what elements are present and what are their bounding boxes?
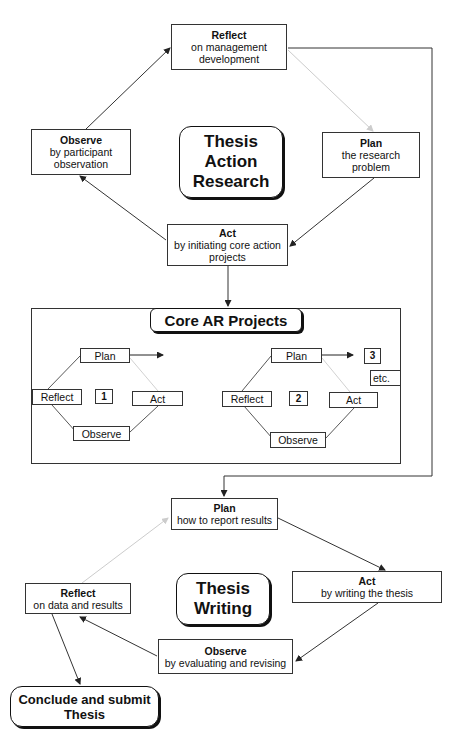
cycle1-plan: Plan xyxy=(80,348,130,363)
cycle1-plan-label: Plan xyxy=(94,350,115,362)
act-heading: Act xyxy=(219,227,236,239)
observe-participant-box: Observe by participant observation xyxy=(31,129,131,175)
cycle2-reflect-label: Reflect xyxy=(231,393,264,405)
reflect-line-1: on management xyxy=(191,41,267,53)
observe-line-1: by participant xyxy=(50,146,112,158)
cycle2-act-label: Act xyxy=(346,394,361,406)
cycle3-number-label: 3 xyxy=(370,350,376,362)
cycle2-plan: Plan xyxy=(271,348,322,363)
thesis-writing-title: Thesis Writing xyxy=(176,573,270,625)
cycle2-act: Act xyxy=(329,392,378,408)
cycle2-number: 2 xyxy=(289,391,308,406)
conclude-line-1: Conclude and submit xyxy=(18,692,150,707)
title-line-2: Action xyxy=(205,152,258,172)
title-line-1: Thesis xyxy=(204,132,258,152)
plan-line-1: the research xyxy=(342,149,400,161)
observe-heading: Observe xyxy=(60,134,102,146)
plan-heading: Plan xyxy=(360,137,382,149)
writing-title-line-1: Thesis xyxy=(196,579,250,599)
cycle3-number: 3 xyxy=(364,348,381,364)
act-line-1: by initiating core action xyxy=(174,239,281,251)
cycle2-plan-label: Plan xyxy=(286,350,307,362)
act-writing-line: by writing the thesis xyxy=(321,587,413,599)
conclude-line-2: Thesis xyxy=(64,707,105,722)
cycle1-number-label: 1 xyxy=(101,391,107,403)
core-title-text: Core AR Projects xyxy=(165,312,288,329)
cycle2-observe: Observe xyxy=(270,432,326,448)
observe-line-2: observation xyxy=(54,158,108,170)
plan-line-2: problem xyxy=(352,161,390,173)
reflect-line-2: development xyxy=(199,53,259,65)
etc-box: etc. xyxy=(370,370,401,386)
reflect-heading: Reflect xyxy=(211,29,246,41)
reflect-management-box: Reflect on management development xyxy=(171,24,287,70)
etc-label: etc. xyxy=(373,372,390,384)
observe-eval-line: by evaluating and revising xyxy=(165,657,286,669)
reflect-data-line: on data and results xyxy=(33,599,122,611)
cycle1-act-label: Act xyxy=(150,393,165,405)
reflect-data-heading: Reflect xyxy=(60,587,95,599)
cycle1-observe: Observe xyxy=(73,426,130,441)
plan-report-results-box: Plan how to report results xyxy=(171,498,278,530)
cycle2-reflect: Reflect xyxy=(222,391,272,407)
act-writing-heading: Act xyxy=(359,575,376,587)
plan-report-line: how to report results xyxy=(177,514,272,526)
cycle2-number-label: 2 xyxy=(296,393,302,405)
title-line-3: Research xyxy=(193,172,270,192)
plan-report-heading: Plan xyxy=(213,502,235,514)
conclude-submit-thesis-box: Conclude and submit Thesis xyxy=(10,686,159,727)
act-writing-thesis-box: Act by writing the thesis xyxy=(292,571,442,603)
cycle1-observe-label: Observe xyxy=(82,428,122,440)
observe-eval-heading: Observe xyxy=(204,645,246,657)
plan-research-problem-box: Plan the research problem xyxy=(322,132,420,178)
cycle2-observe-label: Observe xyxy=(278,434,318,446)
reflect-data-results-box: Reflect on data and results xyxy=(25,583,131,614)
thesis-action-research-title: Thesis Action Research xyxy=(179,126,283,198)
writing-title-line-2: Writing xyxy=(194,599,252,619)
act-line-2: projects xyxy=(209,251,246,263)
observe-evaluating-box: Observe by evaluating and revising xyxy=(158,639,293,674)
cycle1-reflect: Reflect xyxy=(32,389,82,405)
core-ar-projects-title: Core AR Projects xyxy=(150,308,302,332)
cycle1-reflect-label: Reflect xyxy=(41,391,74,403)
cycle1-act: Act xyxy=(132,391,183,406)
cycle1-number: 1 xyxy=(95,389,113,404)
act-core-projects-box: Act by initiating core action projects xyxy=(167,224,288,266)
